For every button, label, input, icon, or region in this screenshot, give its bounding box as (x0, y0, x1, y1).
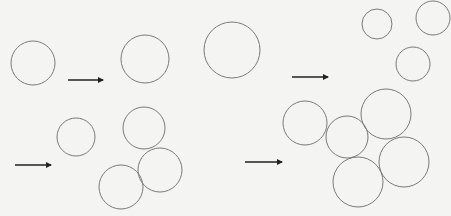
after-circle (361, 89, 411, 139)
after-circle (379, 137, 429, 187)
panel-top-left (11, 35, 169, 85)
before-circle (204, 22, 260, 78)
after-circle (333, 157, 383, 207)
diagram-canvas (0, 0, 451, 216)
after-circle (121, 35, 169, 83)
after-circle (416, 1, 450, 35)
after-circle (362, 9, 392, 39)
panel-bottom-left (15, 107, 182, 209)
before-circle (57, 118, 95, 156)
after-circle (123, 107, 165, 149)
after-circle (283, 101, 327, 145)
after-circle (138, 148, 182, 192)
after-circle (99, 165, 143, 209)
after-circle (326, 116, 368, 158)
panel-bottom-right (245, 89, 429, 207)
before-circle (11, 41, 55, 85)
circles-diagram (0, 0, 451, 216)
panel-top-right (204, 1, 450, 81)
after-circle (396, 47, 430, 81)
